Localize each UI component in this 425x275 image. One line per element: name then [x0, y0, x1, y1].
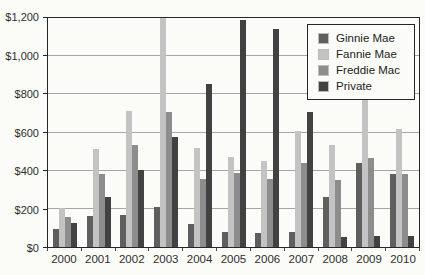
bar-private-2001 — [105, 197, 111, 247]
legend-swatch-icon — [319, 34, 328, 43]
legend-label: Fannie Mae — [336, 48, 397, 60]
x-tick-label-2004: 2004 — [183, 253, 217, 265]
bar-group-2002 — [115, 18, 149, 247]
x-tick-mark — [284, 248, 318, 251]
bar-private-2008 — [341, 237, 347, 247]
y-tick-label-0: $0 — [27, 242, 39, 254]
bar-private-2010 — [408, 236, 414, 247]
x-axis-ticks — [47, 248, 420, 251]
legend-item-ginnie-mae: Ginnie Mae — [319, 30, 400, 46]
legend-swatch-icon — [319, 50, 328, 59]
bar-group-2006 — [250, 18, 284, 247]
legend-item-fannie-mae: Fannie Mae — [319, 46, 400, 62]
bar-freddie-mac-2009 — [368, 158, 374, 247]
x-tick-label-2000: 2000 — [47, 253, 81, 265]
bar-group-2004 — [183, 18, 217, 247]
legend-swatch-icon — [319, 66, 328, 75]
y-tick-label-1200: $1,200 — [5, 11, 39, 23]
bar-private-2000 — [71, 223, 77, 247]
bar-private-2009 — [374, 236, 380, 247]
bar-group-2003 — [149, 18, 183, 247]
y-tick-label-800: $800 — [15, 88, 39, 100]
bar-private-2003 — [172, 137, 178, 247]
x-tick-mark — [148, 248, 182, 251]
x-axis-labels: 2000200120022003200420052006200720082009… — [47, 253, 420, 265]
x-tick-mark — [216, 248, 250, 251]
bar-group-2000 — [48, 18, 82, 247]
x-tick-mark — [115, 248, 149, 251]
x-tick-mark — [182, 248, 216, 251]
x-tick-mark — [47, 248, 81, 251]
x-tick-label-2002: 2002 — [115, 253, 149, 265]
y-tick-label-400: $400 — [15, 165, 39, 177]
plot-area: Ginnie MaeFannie MaeFreddie MacPrivate — [47, 17, 420, 248]
y-tick-label-200: $200 — [15, 204, 39, 216]
legend-label: Freddie Mac — [336, 64, 400, 76]
legend-label: Private — [336, 80, 372, 92]
bar-private-2006 — [273, 29, 279, 247]
bar-private-2007 — [307, 112, 313, 247]
x-tick-label-2008: 2008 — [318, 253, 352, 265]
legend-swatch-icon — [319, 82, 328, 91]
y-tick-label-1000: $1,000 — [5, 50, 39, 62]
bar-private-2005 — [240, 20, 246, 247]
x-tick-mark — [351, 248, 385, 251]
bar-group-2001 — [82, 18, 116, 247]
chart: $0$200$400$600$800$1,000$1,200 Ginnie Ma… — [0, 0, 425, 275]
x-tick-label-2006: 2006 — [250, 253, 284, 265]
bar-private-2004 — [206, 84, 212, 247]
x-tick-label-2003: 2003 — [149, 253, 183, 265]
x-tick-mark — [318, 248, 352, 251]
x-tick-label-2009: 2009 — [352, 253, 386, 265]
x-tick-label-2010: 2010 — [386, 253, 420, 265]
bar-group-2005 — [217, 18, 251, 247]
legend-item-private: Private — [319, 78, 400, 94]
x-tick-mark — [81, 248, 115, 251]
legend-item-freddie-mac: Freddie Mac — [319, 62, 400, 78]
y-axis-labels: $0$200$400$600$800$1,000$1,200 — [0, 17, 40, 248]
x-tick-mark — [250, 248, 284, 251]
legend: Ginnie MaeFannie MaeFreddie MacPrivate — [307, 24, 415, 100]
x-tick-mark — [385, 248, 419, 251]
legend-label: Ginnie Mae — [336, 32, 395, 44]
x-tick-label-2001: 2001 — [81, 253, 115, 265]
x-tick-label-2005: 2005 — [217, 253, 251, 265]
y-tick-label-600: $600 — [15, 127, 39, 139]
x-tick-label-2007: 2007 — [284, 253, 318, 265]
bar-private-2002 — [138, 170, 144, 247]
